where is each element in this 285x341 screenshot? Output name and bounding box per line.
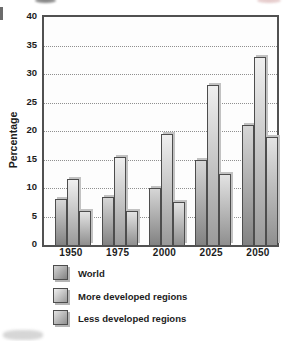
x-tick-label-2025: 2025 xyxy=(189,247,233,258)
legend-label: Less developed regions xyxy=(78,313,186,324)
scan-artifact xyxy=(257,0,281,3)
x-tick-label-2000: 2000 xyxy=(143,247,187,258)
bar-2025-more-developed-regions xyxy=(207,85,219,245)
y-tick-label-0: 0 xyxy=(0,238,37,249)
bar-2025-less-developed-regions xyxy=(219,174,231,245)
x-tick-label-2050: 2050 xyxy=(236,247,280,258)
gridline-30 xyxy=(44,74,277,75)
gridline-25 xyxy=(44,103,277,104)
y-tick-label-15: 15 xyxy=(0,153,37,164)
y-tick-label-25: 25 xyxy=(0,96,37,107)
scan-artifact xyxy=(3,330,43,340)
legend-label: World xyxy=(78,268,105,279)
y-tick-label-20: 20 xyxy=(0,124,37,135)
y-tick-label-10: 10 xyxy=(0,181,37,192)
bar-1950-more-developed-regions xyxy=(67,179,79,245)
y-tick-label-30: 30 xyxy=(0,67,37,78)
legend-swatch-icon xyxy=(53,310,68,325)
y-tick-label-5: 5 xyxy=(0,210,37,221)
bar-2050-world xyxy=(242,125,254,245)
bar-1950-less-developed-regions xyxy=(79,211,91,245)
y-tick-label-40: 40 xyxy=(0,10,37,21)
y-tick-label-35: 35 xyxy=(0,39,37,50)
gridline-35 xyxy=(44,46,277,47)
bar-1975-world xyxy=(102,197,114,245)
bar-2050-more-developed-regions xyxy=(254,57,266,245)
bar-1975-more-developed-regions xyxy=(114,157,126,245)
legend-swatch-icon xyxy=(53,288,68,303)
bar-chart-figure: Percentage 0510152025303540 195019752000… xyxy=(0,0,285,341)
bar-2000-less-developed-regions xyxy=(173,202,185,245)
plot-area xyxy=(42,15,279,247)
bar-1975-less-developed-regions xyxy=(126,211,138,245)
scan-artifact xyxy=(35,0,56,3)
bar-1950-world xyxy=(55,199,67,245)
legend-swatch-icon xyxy=(53,265,68,280)
x-tick-label-1950: 1950 xyxy=(49,247,93,258)
x-tick-label-1975: 1975 xyxy=(96,247,140,258)
bar-2025-world xyxy=(195,160,207,246)
legend-label: More developed regions xyxy=(78,291,187,302)
bar-2000-more-developed-regions xyxy=(161,134,173,245)
bar-2000-world xyxy=(149,188,161,245)
bar-2050-less-developed-regions xyxy=(266,137,278,245)
